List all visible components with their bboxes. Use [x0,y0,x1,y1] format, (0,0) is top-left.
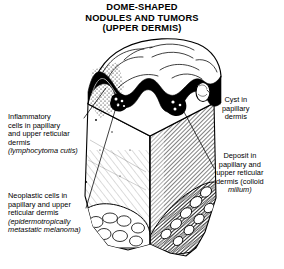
label-deposit-line-5: milium) [216,186,264,195]
label-cyst: Cyst in papillary dermis [222,96,250,122]
label-cyst-line-3: dermis [222,113,250,122]
cyst-inclusion [196,83,210,102]
label-neoplastic-cells: Neoplastic cells in papillary and upper … [8,192,81,235]
label-deposit: Deposit in papillary and upper reticular… [216,152,264,195]
figure-page: DOME-SHAPED NODULES AND TUMORS (UPPER DE… [0,0,284,269]
label-neoplastic-line-5: metastatic melanoma) [8,226,81,235]
label-inflammatory-line-5: (lymphocytoma cutis) [8,147,78,156]
label-inflammatory-cells: Inflammatory cells in papillary and uppe… [8,113,78,156]
